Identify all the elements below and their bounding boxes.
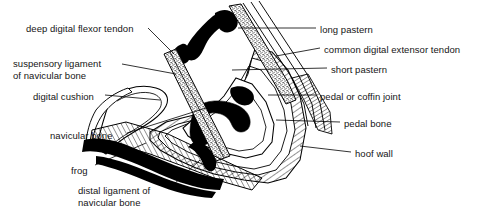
label-deep-digital-flexor-tendon: deep digital flexor tendon	[26, 23, 133, 35]
label-digital-cushion: digital cushion	[33, 91, 94, 103]
label-distal-ligament-of-navicular-bone: distal ligament of navicular bone	[78, 185, 150, 208]
long-pastern-shaft	[185, 12, 232, 61]
label-common-digital-extensor-tendon: common digital extensor tendon	[324, 44, 460, 56]
label-pedal-bone: pedal bone	[344, 118, 392, 130]
leader-hoof-wall	[300, 146, 351, 152]
leader-common-digital-extensor-tendon	[276, 48, 320, 56]
leader-deep-digital-flexor-tendon	[148, 28, 174, 54]
label-frog: frog	[71, 165, 88, 177]
label-hoof-wall: hoof wall	[355, 148, 393, 160]
diagram-page: deep digital flexor tendon suspensory li…	[0, 0, 493, 219]
label-long-pastern: long pastern	[320, 24, 373, 36]
label-navicular-bone: navicular bone	[50, 130, 113, 142]
label-short-pastern: short pastern	[331, 64, 387, 76]
label-pedal-or-coffin-joint: pedal or coffin joint	[320, 91, 401, 103]
label-suspensory-ligament-of-navicular-bone: suspensory ligament of navicular bone	[13, 58, 101, 81]
leader-suspensory-ligament	[122, 64, 176, 74]
